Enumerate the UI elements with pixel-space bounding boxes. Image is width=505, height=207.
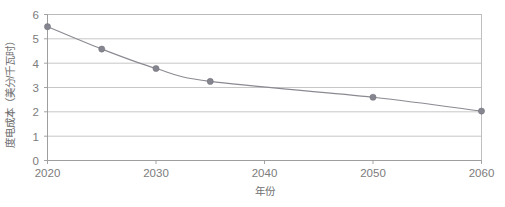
x-tick-label-2020: 2020 <box>35 167 61 179</box>
data-point-2025 <box>99 46 105 52</box>
y-tick-label-2: 2 <box>33 106 39 118</box>
y-axis-title: 度电成本（美分/千瓦时） <box>4 36 16 149</box>
x-axis-title: 年份 <box>255 185 276 197</box>
y-tick-label-6: 6 <box>33 9 39 21</box>
y-tick-label-1: 1 <box>33 131 39 143</box>
y-tick-label-0: 0 <box>33 155 39 167</box>
data-point-2050 <box>370 94 376 100</box>
y-tick-label-5: 5 <box>33 33 39 45</box>
lcoe-line-chart: 6 5 4 3 2 1 0 2020 2030 2040 2050 2060 度… <box>0 0 505 207</box>
y-tick-label-4: 4 <box>33 58 40 70</box>
chart-screenshot: 6 5 4 3 2 1 0 2020 2030 2040 2050 2060 度… <box>0 0 505 207</box>
data-point-2035 <box>207 78 213 84</box>
x-tick-label-2030: 2030 <box>143 167 169 179</box>
data-point-2060 <box>478 108 484 114</box>
x-tick-label-2060: 2060 <box>469 167 495 179</box>
data-point-2020 <box>44 24 50 30</box>
y-tick-label-3: 3 <box>33 82 39 94</box>
x-tick-label-2040: 2040 <box>252 167 278 179</box>
x-tick-label-2050: 2050 <box>360 167 386 179</box>
data-point-2030 <box>153 65 159 71</box>
